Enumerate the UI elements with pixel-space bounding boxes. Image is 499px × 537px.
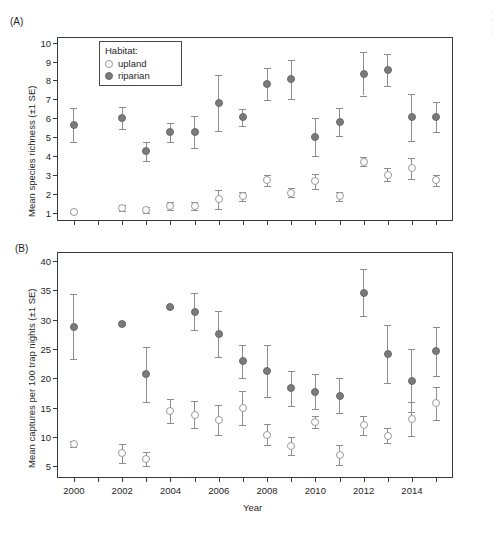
panel-a-error-cap-bottom bbox=[433, 186, 440, 187]
panel-b-point-riparian bbox=[360, 289, 368, 297]
panel-a-error-cap-top bbox=[70, 108, 77, 109]
panel-b-error-cap-top bbox=[191, 401, 198, 402]
panel-a-point-riparian bbox=[360, 70, 368, 78]
panel-b-plot-area bbox=[57, 252, 453, 478]
panel-b-point-riparian bbox=[408, 377, 416, 385]
panel-b-error-cap-top bbox=[433, 327, 440, 328]
panel-b-point-upland bbox=[311, 418, 319, 426]
panel-a-error-cap-top bbox=[288, 60, 295, 61]
panel-a-xtick bbox=[98, 221, 99, 225]
panel-b-error-cap-top bbox=[360, 269, 367, 270]
panel-b-error-cap-bottom bbox=[143, 402, 150, 403]
panel-a-error-cap-bottom bbox=[408, 141, 415, 142]
legend-item-upland[interactable]: upland bbox=[105, 58, 175, 69]
panel-a-error-cap-bottom bbox=[264, 100, 271, 101]
panel-b-point-upland bbox=[360, 421, 368, 429]
panel-a-error-cap-top bbox=[336, 108, 343, 109]
panel-b-ytick bbox=[53, 261, 57, 262]
panel-b-error-cap-bottom bbox=[264, 445, 271, 446]
panel-b-error-cap-bottom bbox=[433, 376, 440, 377]
x-axis-title: Year bbox=[243, 502, 262, 513]
panel-a-error-cap-top bbox=[191, 116, 198, 117]
panel-a-ytick bbox=[53, 156, 57, 157]
panel-a-error-cap-top bbox=[408, 94, 415, 95]
panel-a-ytick-label: 9 bbox=[23, 57, 51, 68]
panel-b-xtick bbox=[98, 478, 99, 482]
panel-b-error-cap-bottom bbox=[239, 425, 246, 426]
panel-a-error-cap-bottom bbox=[384, 181, 391, 182]
panel-b-error-cap-bottom bbox=[288, 455, 295, 456]
panel-b-letter: (B) bbox=[15, 243, 28, 254]
panel-a-xtick bbox=[436, 221, 437, 225]
panel-b-error-cap-top bbox=[191, 293, 198, 294]
panel-b-error-cap-top bbox=[264, 345, 271, 346]
panel-b-y-axis-title: Mean captures per 100 trap nights (±1 SE… bbox=[26, 289, 37, 468]
panel-a-error-cap-top bbox=[143, 142, 150, 143]
panel-a-point-upland bbox=[191, 202, 199, 210]
xtick-label: 2012 bbox=[344, 485, 384, 496]
panel-a-ytick bbox=[53, 175, 57, 176]
panel-b-error-cap-top bbox=[336, 445, 343, 446]
panel-b-error-cap-top bbox=[336, 378, 343, 379]
panel-b-error-cap-top bbox=[119, 444, 126, 445]
panel-b-point-upland bbox=[70, 440, 78, 448]
panel-a-point-upland bbox=[360, 158, 368, 166]
legend: Habitat:uplandriparian bbox=[99, 41, 182, 86]
panel-b-error-cap-top bbox=[288, 437, 295, 438]
panel-b-ytick bbox=[53, 349, 57, 350]
panel-b-xtick bbox=[195, 478, 196, 482]
panel-b-error-cap-top bbox=[312, 416, 319, 417]
margin-note-fragment: ( bbox=[491, 24, 492, 30]
xtick-label: 2010 bbox=[295, 485, 335, 496]
panel-a-error-cap-bottom bbox=[215, 131, 222, 132]
panel-a-point-riparian bbox=[215, 99, 223, 107]
panel-a-error-cap-top bbox=[215, 75, 222, 76]
panel-a-error-cap-bottom bbox=[191, 148, 198, 149]
panel-b-error-cap-bottom bbox=[191, 330, 198, 331]
panel-b-error-cap-bottom bbox=[239, 378, 246, 379]
panel-b-error-cap-top bbox=[70, 294, 77, 295]
filled-circle-icon bbox=[105, 72, 113, 80]
panel-a-error-cap-bottom bbox=[264, 186, 271, 187]
panel-b-error-cap-top bbox=[143, 452, 150, 453]
panel-a-error-cap-top bbox=[360, 52, 367, 53]
panel-a-point-upland bbox=[384, 171, 392, 179]
panel-b-error-cap-top bbox=[239, 345, 246, 346]
panel-b-error-cap-top bbox=[312, 374, 319, 375]
panel-a-error-cap-top bbox=[239, 109, 246, 110]
panel-b-error-cap-bottom bbox=[312, 428, 319, 429]
panel-a-error-cap-bottom bbox=[408, 179, 415, 180]
panel-a-error-cap-top bbox=[408, 158, 415, 159]
legend-item-label: riparian bbox=[118, 70, 150, 81]
panel-a-error-cap-top bbox=[312, 174, 319, 175]
panel-b-error-cap-top bbox=[288, 371, 295, 372]
panel-a-xtick bbox=[291, 221, 292, 225]
panel-b-error-cap-bottom bbox=[143, 466, 150, 467]
panel-b-point-upland bbox=[191, 411, 199, 419]
panel-b-error-cap-bottom bbox=[167, 423, 174, 424]
panel-b-xtick bbox=[267, 478, 268, 482]
panel-a-point-riparian bbox=[384, 66, 392, 74]
panel-a-ytick-label: 10 bbox=[23, 38, 51, 49]
panel-b-xtick bbox=[388, 478, 389, 482]
panel-a-error-cap-top bbox=[433, 102, 440, 103]
panel-a-error-cap-bottom bbox=[70, 142, 77, 143]
panel-b-ytick bbox=[53, 408, 57, 409]
panel-b-point-riparian bbox=[384, 350, 392, 358]
legend-item-riparian[interactable]: riparian bbox=[105, 70, 175, 81]
panel-b-error-cap-bottom bbox=[215, 357, 222, 358]
panel-a-point-upland bbox=[142, 206, 150, 214]
panel-b-xtick bbox=[436, 478, 437, 482]
panel-a-error-cap-bottom bbox=[288, 99, 295, 100]
panel-b-ytick bbox=[53, 320, 57, 321]
panel-b-error-cap-bottom bbox=[119, 463, 126, 464]
panel-a-xtick bbox=[146, 221, 147, 225]
panel-a-error-cap-bottom bbox=[336, 136, 343, 137]
xtick-label: 2006 bbox=[199, 485, 239, 496]
panel-a-error-cap-bottom bbox=[239, 201, 246, 202]
panel-a-xtick bbox=[219, 221, 220, 225]
panel-b-ytick bbox=[53, 290, 57, 291]
panel-a-xtick bbox=[267, 221, 268, 225]
xtick-label: 2002 bbox=[102, 485, 142, 496]
panel-a-ytick bbox=[53, 213, 57, 214]
